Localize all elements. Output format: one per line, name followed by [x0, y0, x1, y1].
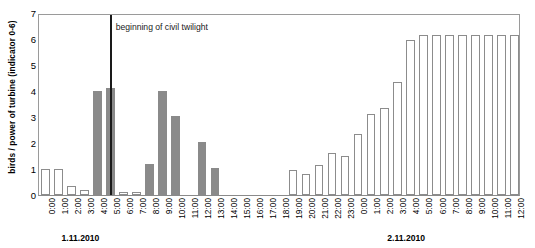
y-tick-5: 5 — [20, 61, 36, 71]
x-axis-tick-labels: 0:001:002:003:004:005:006:007:008:009:00… — [38, 198, 520, 232]
bar — [302, 174, 311, 195]
x-tick-label: 7:00 — [139, 198, 147, 214]
x-tick-label: 0:00 — [48, 198, 56, 214]
x-tick-label: 16:00 — [256, 198, 264, 219]
y-tick-3: 3 — [20, 113, 36, 123]
x-tick-label: 5:00 — [425, 198, 433, 214]
civil-twilight-label: beginning of civil twilight — [116, 22, 208, 32]
bar — [393, 82, 402, 195]
bar — [198, 142, 207, 195]
x-tick-label: 2:00 — [74, 198, 82, 214]
x-tick-label: 17:00 — [269, 198, 277, 219]
x-tick-label: 1:00 — [373, 198, 381, 214]
x-tick-label: 3:00 — [87, 198, 95, 214]
x-tick-label: 12:00 — [204, 198, 212, 219]
bar — [315, 165, 324, 195]
x-tick-label: 11:00 — [191, 198, 199, 218]
x-tick-label: 6:00 — [439, 198, 447, 214]
x-tick-label: 0:00 — [360, 198, 368, 214]
bar — [289, 170, 298, 195]
x-tick-label: 19:00 — [295, 198, 303, 219]
bar — [328, 153, 337, 195]
bird-activity-bar-chart: birds / power of turbine (indicator 0-6)… — [0, 0, 535, 248]
bar — [67, 186, 76, 195]
x-tick-label: 10:00 — [178, 198, 186, 219]
bar — [445, 35, 454, 195]
bar — [458, 35, 467, 195]
day-label: 1.11.2010 — [62, 233, 100, 243]
x-tick-label: 15:00 — [243, 198, 251, 219]
bar — [119, 192, 128, 195]
bar — [171, 116, 180, 195]
bar — [54, 169, 63, 195]
bar — [432, 35, 441, 195]
y-tick-0: 0 — [20, 191, 36, 201]
x-tick-label: 11:00 — [504, 198, 512, 218]
day-label: 2.11.2010 — [387, 233, 425, 243]
bar — [367, 114, 376, 195]
x-tick-label: 9:00 — [165, 198, 173, 214]
y-axis-title: birds / power of turbine (indicator 0-6) — [7, 0, 17, 197]
y-tick-2: 2 — [20, 139, 36, 149]
y-tick-1: 1 — [20, 165, 36, 175]
x-tick-label: 22:00 — [334, 198, 342, 219]
x-tick-label: 13:00 — [217, 198, 225, 219]
bar — [211, 168, 220, 195]
x-tick-label: 7:00 — [452, 198, 460, 214]
bar — [510, 35, 519, 195]
bar — [145, 164, 154, 195]
x-tick-label: 14:00 — [230, 198, 238, 219]
x-tick-label: 1:00 — [61, 198, 69, 214]
x-tick-label: 3:00 — [399, 198, 407, 214]
bar — [80, 190, 89, 195]
y-tick-4: 4 — [20, 87, 36, 97]
x-tick-label: 23:00 — [347, 198, 355, 219]
plot-area: beginning of civil twilight — [38, 14, 520, 196]
bar — [419, 35, 428, 195]
y-axis-tick-labels: 01234567 — [20, 0, 36, 248]
bar — [484, 35, 493, 195]
bar — [497, 35, 506, 195]
x-tick-label: 4:00 — [412, 198, 420, 214]
bar — [406, 40, 415, 195]
x-tick-label: 9:00 — [478, 198, 486, 214]
y-tick-7: 7 — [20, 9, 36, 19]
x-tick-label: 12:00 — [517, 198, 525, 219]
x-tick-label: 18:00 — [282, 198, 290, 219]
x-tick-label: 4:00 — [100, 198, 108, 214]
bar — [341, 156, 350, 195]
x-tick-label: 2:00 — [386, 198, 394, 214]
bar — [354, 134, 363, 195]
bar — [93, 91, 102, 195]
bar — [158, 91, 167, 195]
x-tick-label: 8:00 — [152, 198, 160, 214]
x-tick-label: 21:00 — [321, 198, 329, 219]
x-tick-label: 20:00 — [308, 198, 316, 219]
bar — [132, 192, 141, 195]
x-tick-label: 8:00 — [465, 198, 473, 214]
civil-twilight-line — [110, 15, 112, 195]
bar — [471, 35, 480, 195]
bar — [380, 108, 389, 195]
x-tick-label: 10:00 — [491, 198, 499, 219]
bar — [41, 169, 50, 195]
y-tick-6: 6 — [20, 35, 36, 45]
x-tick-label: 6:00 — [126, 198, 134, 214]
x-tick-label: 5:00 — [113, 198, 121, 214]
